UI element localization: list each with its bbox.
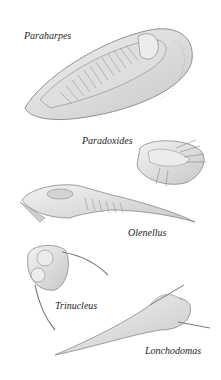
label-paradoxides: Paradoxides: [82, 135, 133, 146]
label-lonchodomas: Lonchodomas: [145, 345, 201, 356]
olenellus-drawing: [20, 185, 195, 222]
label-olenellus: Olenellus: [128, 227, 166, 238]
paradoxides-drawing: [137, 140, 206, 186]
paraharpes-drawing: [25, 29, 192, 120]
label-paraharpes: Paraharpes: [24, 30, 71, 41]
trinucleus-drawing: [28, 245, 108, 330]
label-trinucleus: Trinucleus: [55, 300, 97, 311]
trilobite-illustration: Paraharpes Paradoxides Olenellus Trinucl…: [0, 0, 221, 380]
trilobite-drawings: [0, 0, 221, 380]
